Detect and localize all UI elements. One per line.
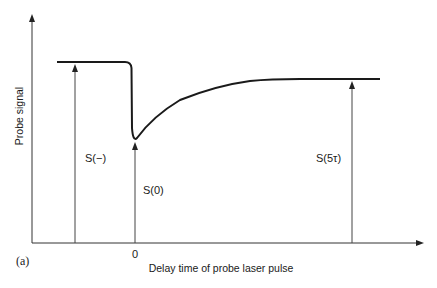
s-zero-label: S(0)	[143, 184, 164, 196]
x-axis-label: Delay time of probe laser pulse	[149, 262, 294, 274]
pump-probe-diagram: S(−) S(0) S(5τ) 0 Delay time of probe la…	[0, 0, 437, 288]
x-tick-zero: 0	[132, 248, 138, 260]
s-five-tau-label: S(5τ)	[316, 152, 341, 164]
s-minus-label: S(−)	[85, 152, 106, 164]
y-axis-label: Probe signal	[13, 87, 25, 145]
probe-signal-curve	[57, 62, 380, 139]
panel-label: (a)	[16, 254, 29, 268]
